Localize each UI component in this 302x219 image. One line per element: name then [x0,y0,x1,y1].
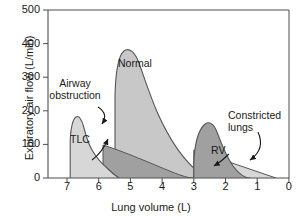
annotation-constricted-lungs-line2: lungs [228,122,281,134]
x-tick-3: 3 [184,180,204,192]
annotation-airway-obstruction-line1: Airway [28,78,122,90]
x-tick-2: 2 [216,180,236,192]
flow-volume-chart: 500 400 300 200 100 0 7 6 5 4 3 2 1 0 Ex… [0,0,302,219]
arrow-constricted-lungs [250,132,260,160]
x-tick-5: 5 [120,180,140,192]
x-tick-7: 7 [57,180,77,192]
x-axis-label: Lung volume (L) [0,201,302,213]
annotation-tlc: TLC [70,134,90,146]
arrow-airway-obstruction [98,107,105,124]
annotation-rv: RV [211,145,225,157]
annotation-constricted-lungs: Constricted lungs [228,110,281,133]
annotation-airway-obstruction-line2: obstruction [28,90,122,102]
annotation-normal: Normal [118,58,152,70]
x-tick-0: 0 [279,180,299,192]
x-tick-4: 4 [152,180,172,192]
annotation-constricted-lungs-line1: Constricted [228,110,281,122]
x-tick-6: 6 [89,180,109,192]
x-tick-1: 1 [247,180,267,192]
annotation-airway-obstruction: Airway obstruction [28,78,122,101]
